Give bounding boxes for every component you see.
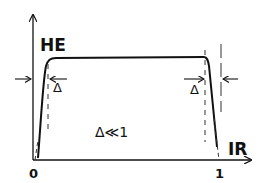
diagram: HE IR 0 1 Δ Δ Δ≪1 <box>0 0 263 183</box>
x-tick-origin: 0 <box>29 166 38 181</box>
delta-annotation: Δ≪1 <box>95 124 128 140</box>
delta-right-label: Δ <box>190 82 199 97</box>
x-axis-label: IR <box>228 139 247 159</box>
x-tick-end: 1 <box>215 166 224 181</box>
y-axis-label: HE <box>40 35 66 55</box>
he-curve <box>38 57 217 158</box>
delta-left-label: Δ <box>53 80 62 95</box>
